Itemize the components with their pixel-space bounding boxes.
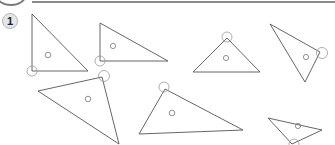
triangle-2[interactable] xyxy=(95,23,168,66)
center-dot-icon xyxy=(45,52,51,58)
triangle-3[interactable] xyxy=(193,32,260,72)
center-dot-icon xyxy=(169,110,175,116)
center-dot-icon xyxy=(223,55,228,60)
center-dot-icon xyxy=(110,43,115,48)
triangle-4[interactable] xyxy=(270,24,328,82)
center-dot-icon xyxy=(295,123,300,128)
triangle-6-outline xyxy=(139,89,243,134)
triangle-5-outline xyxy=(38,77,119,144)
triangle-6[interactable] xyxy=(139,82,243,134)
triangle-7-outline xyxy=(268,118,322,144)
angle-marker-icon[interactable] xyxy=(317,48,328,59)
triangle-2-outline xyxy=(100,23,168,61)
triangle-4-outline xyxy=(270,24,320,82)
angle-marker-icon[interactable] xyxy=(99,71,110,82)
worksheet-page: 1 xyxy=(0,0,335,145)
triangle-1-outline xyxy=(32,14,88,71)
triangle-3-outline xyxy=(193,38,260,72)
triangle-7[interactable] xyxy=(268,118,322,145)
angle-marker-icon[interactable] xyxy=(222,32,232,42)
center-dot-icon xyxy=(85,96,91,102)
center-dot-icon xyxy=(303,54,308,59)
triangle-5[interactable] xyxy=(38,71,119,145)
triangle-figures xyxy=(0,0,335,145)
triangle-1[interactable] xyxy=(27,14,88,76)
